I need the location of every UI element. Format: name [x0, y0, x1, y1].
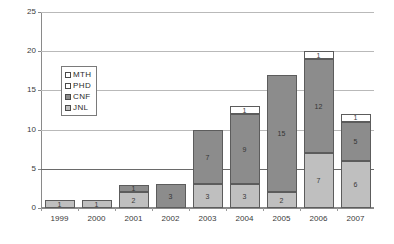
- x-tick-mark-0: [41, 208, 42, 211]
- x-tick-2007: 2007: [333, 214, 379, 223]
- bar-value-label: 6: [354, 181, 358, 188]
- bar-value-label: 1: [317, 52, 321, 59]
- legend-item-mth: MTH: [65, 69, 92, 80]
- bar-segment-2007-phd[interactable]: 1: [341, 114, 371, 122]
- bar-value-label: 1: [354, 114, 358, 121]
- bar-value-label: 12: [315, 103, 323, 110]
- bar-value-label: 1: [95, 201, 99, 208]
- bar-value-label: 2: [280, 197, 284, 204]
- legend-item-phd: PHD: [65, 80, 92, 91]
- x-tick-mark-3: [152, 208, 153, 211]
- bar-segment-2005-cnf[interactable]: 15: [267, 75, 297, 193]
- bar-segment-2002-cnf[interactable]: 3: [156, 184, 186, 208]
- bar-segment-2003-cnf[interactable]: 7: [193, 130, 223, 185]
- chart-legend: MTH PHD CNF JNL: [61, 66, 97, 116]
- x-tick-mark-5: [226, 208, 227, 211]
- bar-value-label: 3: [206, 193, 210, 200]
- bar-segment-2004-phd[interactable]: 1: [230, 106, 260, 114]
- bar-segment-2000-jnl[interactable]: 1: [82, 200, 112, 208]
- bar-value-label: 1: [132, 185, 136, 192]
- legend-label-mth: MTH: [73, 71, 92, 79]
- x-tick-mark-1: [78, 208, 79, 211]
- y-tick-5: 5: [10, 165, 36, 173]
- legend-item-jnl: JNL: [65, 102, 92, 113]
- bar-segment-2006-phd[interactable]: 1: [304, 51, 334, 59]
- bar-segment-2003-jnl[interactable]: 3: [193, 184, 223, 208]
- bar-value-label: 9: [243, 146, 247, 153]
- x-tick-mark-2: [115, 208, 116, 211]
- legend-swatch-jnl-icon: [65, 105, 71, 111]
- x-tick-mark-4: [189, 208, 190, 211]
- x-tick-mark-8: [337, 208, 338, 211]
- bar-segment-2006-jnl[interactable]: 7: [304, 153, 334, 208]
- bar-segment-2007-cnf[interactable]: 5: [341, 122, 371, 161]
- bar-value-label: 1: [243, 107, 247, 114]
- legend-label-phd: PHD: [73, 82, 91, 90]
- bar-segment-2001-jnl[interactable]: 2: [119, 192, 149, 208]
- y-tick-25: 25: [10, 8, 36, 16]
- bar-segment-2007-jnl[interactable]: 6: [341, 161, 371, 208]
- bar-value-label: 3: [243, 193, 247, 200]
- y-tick-20: 20: [10, 47, 36, 55]
- bar-segment-2001-cnf[interactable]: 1: [119, 185, 149, 193]
- bar-segment-2005-jnl[interactable]: 2: [267, 192, 297, 208]
- legend-swatch-phd-icon: [65, 83, 71, 89]
- bar-value-label: 2: [132, 197, 136, 204]
- legend-item-cnf: CNF: [65, 91, 92, 102]
- bar-segment-2004-cnf[interactable]: 9: [230, 114, 260, 185]
- y-tick-10: 10: [10, 126, 36, 134]
- x-tick-mark-7: [300, 208, 301, 211]
- legend-label-jnl: JNL: [73, 104, 88, 112]
- y-tick-0: 0: [10, 204, 36, 212]
- x-tick-mark-6: [263, 208, 264, 211]
- bar-value-label: 7: [206, 154, 210, 161]
- gridline-0: [41, 208, 374, 209]
- bar-value-label: 7: [317, 177, 321, 184]
- legend-swatch-cnf-icon: [65, 94, 71, 100]
- bar-segment-1999-jnl[interactable]: 1: [45, 200, 75, 208]
- stacked-bar-chart: 0510152025 11213373912157121651 19992000…: [0, 0, 394, 244]
- bar-segment-2006-cnf[interactable]: 12: [304, 59, 334, 153]
- bar-value-label: 3: [169, 193, 173, 200]
- bar-value-label: 15: [278, 130, 286, 137]
- bar-value-label: 5: [354, 138, 358, 145]
- legend-label-cnf: CNF: [73, 93, 91, 101]
- bar-value-label: 1: [58, 201, 62, 208]
- bar-segment-2004-jnl[interactable]: 3: [230, 184, 260, 208]
- legend-swatch-mth-icon: [65, 72, 71, 78]
- y-tick-15: 15: [10, 86, 36, 94]
